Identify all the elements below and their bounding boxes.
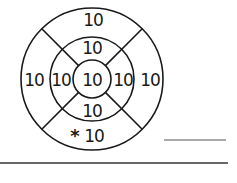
middle-left-score: 10: [51, 70, 71, 90]
dartboard-diagram: 10 10 10 10 10 10 10 10 10 *: [0, 0, 237, 183]
middle-top-score: 10: [82, 38, 102, 58]
outer-left-score: 10: [24, 70, 44, 90]
outer-bottom-score: 10: [84, 126, 104, 146]
middle-right-score: 10: [113, 70, 133, 90]
outer-right-score: 10: [140, 70, 160, 90]
divider-top-right: [105, 29, 142, 66]
middle-bottom-score: 10: [82, 101, 102, 121]
asterisk-marker-icon: *: [70, 125, 80, 146]
divider-bottom-right: [105, 92, 142, 129]
outer-top-score: 10: [83, 10, 103, 30]
center-score: 10: [82, 70, 102, 90]
divider-top-left: [42, 29, 79, 66]
